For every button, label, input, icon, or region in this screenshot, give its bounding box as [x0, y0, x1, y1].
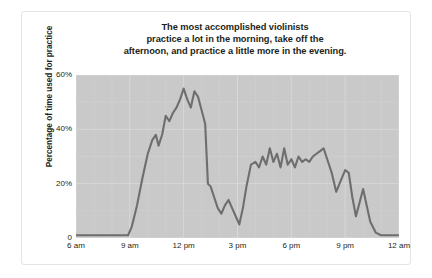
- x-tick-label: 12 pm: [162, 241, 206, 250]
- chart-title-line-3: afternoon, and practice a little more in…: [70, 46, 400, 58]
- x-tick-label: 6 pm: [269, 241, 313, 250]
- x-tick-label: 6 am: [54, 241, 98, 250]
- x-tick-label: 3 pm: [216, 241, 260, 250]
- chart-title-line-1: The most accomplished violinists: [70, 22, 400, 34]
- x-tick-label: 9 am: [108, 241, 152, 250]
- x-tick-label: 9 pm: [323, 241, 367, 250]
- gridlines: [76, 75, 399, 238]
- plot-area: [76, 75, 399, 238]
- chart-title: The most accomplished violinists practic…: [70, 22, 400, 57]
- plot-background: [76, 75, 399, 238]
- chart-card: The most accomplished violinists practic…: [21, 11, 411, 265]
- x-tick-label: 12 am: [377, 241, 421, 250]
- x-axis-tick-labels: 6 am9 am12 pm3 pm6 pm9 pm12 am: [76, 241, 399, 255]
- y-tick-label: 40%: [38, 124, 72, 133]
- y-axis-tick-labels: 020%40%60%: [36, 75, 72, 238]
- y-tick-label: 60%: [38, 70, 72, 79]
- line-chart-svg: [76, 75, 399, 238]
- chart-title-line-2: practice a lot in the morning, take off …: [70, 34, 400, 46]
- y-tick-label: 20%: [38, 179, 72, 188]
